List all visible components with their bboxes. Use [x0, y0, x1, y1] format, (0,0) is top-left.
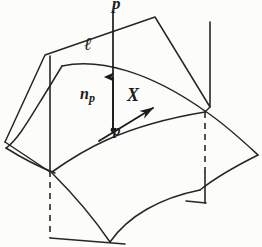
label-normal-vector: np — [80, 86, 95, 104]
plane-bottom-right-edge — [186, 201, 206, 203]
surface-right-edge-lower — [200, 155, 258, 190]
tangent-vector — [99, 108, 153, 141]
label-tangent-vector-x: X — [127, 86, 139, 104]
geometry-diagram — [0, 0, 262, 247]
surface-curve-through-p — [52, 112, 205, 172]
label-line-top-p: p — [112, 0, 121, 12]
plane-bottom-left-edge — [50, 238, 125, 244]
label-normal-vector-base: n — [80, 85, 89, 102]
label-normal-vector-subscript: p — [89, 91, 95, 105]
surface-front-left-fold — [52, 173, 110, 242]
cutting-plane-outline — [5, 17, 210, 142]
label-normal-line-ell: ℓ — [84, 35, 92, 53]
figure-canvas: p ℓ np X p — [0, 0, 262, 247]
surface-left-edge-upper — [6, 89, 48, 148]
surface-left-edge-lower — [6, 148, 55, 173]
surface-right-edge-upper — [205, 111, 258, 155]
label-point-p: p — [113, 123, 121, 138]
tangent-vector-arrow — [99, 108, 153, 141]
surface-front-right-fold — [110, 190, 200, 242]
